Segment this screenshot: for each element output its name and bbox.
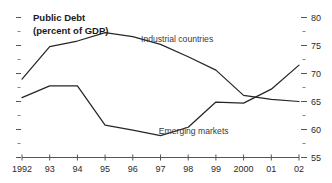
y-tick-label: 70 <box>311 69 321 79</box>
y-tick-label: 55 <box>311 153 321 163</box>
chart-title: Public Debt <box>33 12 86 23</box>
x-tick-label: 2000 <box>234 164 254 174</box>
y-tick-label: 80 <box>311 13 321 23</box>
x-tick-label: 96 <box>128 164 138 174</box>
public-debt-chart: 556065707580 19929394959697989920000102 … <box>0 0 332 183</box>
series-label-emerging-markets: Emerging markets <box>159 126 229 136</box>
x-tick-label: 02 <box>294 164 304 174</box>
chart-subtitle: (percent of GDP) <box>33 25 108 36</box>
y-tick-label: 65 <box>311 97 321 107</box>
x-tick-label: 94 <box>72 164 82 174</box>
x-tick-label: 95 <box>100 164 110 174</box>
y-tick-label: 60 <box>311 125 321 135</box>
x-tick-label: 98 <box>183 164 193 174</box>
x-tick-label: 01 <box>266 164 276 174</box>
x-tick-label: 97 <box>155 164 165 174</box>
x-tick-label: 93 <box>45 164 55 174</box>
y-tick-label: 75 <box>311 41 321 51</box>
x-tick-label: 99 <box>211 164 221 174</box>
chart-canvas: 556065707580 19929394959697989920000102 … <box>0 0 332 183</box>
series-label-industrial-countries: Industrial countries <box>141 34 213 44</box>
x-tick-label: 1992 <box>12 164 32 174</box>
